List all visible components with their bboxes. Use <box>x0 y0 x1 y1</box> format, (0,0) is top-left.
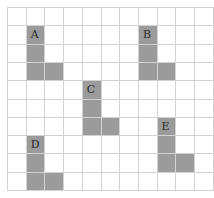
shape-cell <box>101 117 121 136</box>
shape-cell <box>44 172 64 191</box>
grid-line-vertical <box>119 7 120 190</box>
shape-label-d: D <box>31 139 40 150</box>
shape-label-a: A <box>31 29 39 40</box>
grid-line-horizontal <box>7 99 214 100</box>
shape-cell <box>26 172 46 191</box>
shape-label-c: C <box>87 84 95 95</box>
grid-line-vertical <box>44 7 45 190</box>
grid-line-horizontal <box>7 80 214 81</box>
shape-label-b: B <box>143 29 151 40</box>
shape-cell <box>157 62 177 81</box>
grid-line-horizontal <box>7 25 214 26</box>
shape-cell <box>82 99 102 118</box>
shape-cell <box>82 117 102 136</box>
shape-cell <box>138 44 158 63</box>
shape-cell <box>26 44 46 63</box>
shape-cell <box>44 62 64 81</box>
grid-line-horizontal <box>7 172 214 173</box>
shape-cell <box>157 153 177 172</box>
grid-line-horizontal <box>7 44 214 45</box>
grid-line-vertical <box>7 7 8 190</box>
shape-cell <box>138 62 158 81</box>
grid-line-vertical <box>101 7 102 190</box>
grid-line-vertical <box>82 7 83 190</box>
grid-line-vertical <box>175 7 176 190</box>
grid-line-horizontal <box>7 190 214 191</box>
grid-line-vertical <box>194 7 195 190</box>
grid-line-vertical <box>63 7 64 190</box>
grid-line-vertical <box>26 7 27 190</box>
grid-line-horizontal <box>7 7 214 8</box>
grid-line-horizontal <box>7 153 214 154</box>
grid-line-horizontal <box>7 135 214 136</box>
shape-label-e: E <box>162 121 170 132</box>
shape-cell <box>175 153 195 172</box>
grid-line-horizontal <box>7 62 214 63</box>
grid-line-horizontal <box>7 117 214 118</box>
grid-line-vertical <box>213 7 214 190</box>
shape-cell <box>157 135 177 154</box>
grid-line-vertical <box>138 7 139 190</box>
shape-cell <box>26 62 46 81</box>
grid-line-vertical <box>157 7 158 190</box>
shape-cell <box>26 153 46 172</box>
